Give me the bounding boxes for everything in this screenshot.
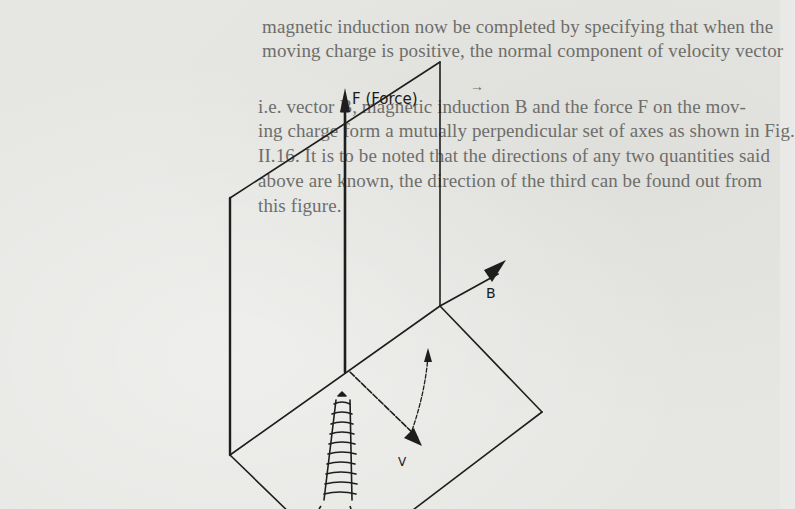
field-arrow-b [440, 260, 506, 306]
vertical-plane [230, 62, 440, 455]
force-label: F (Force) [352, 90, 418, 108]
rotation-arc [410, 348, 432, 436]
velocity-arrow-v [350, 372, 422, 446]
velocity-label: V [398, 455, 407, 469]
screw-icon [324, 392, 357, 500]
field-label: B [486, 285, 496, 301]
force-arrow [340, 88, 350, 372]
